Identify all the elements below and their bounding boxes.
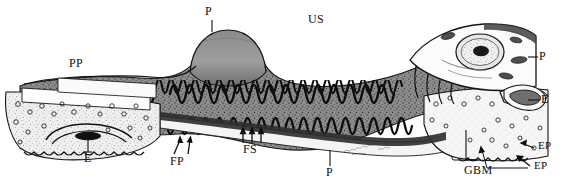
label-fp: FP [170,155,184,167]
label-p-right: P [539,50,546,62]
glomerular-filtration-barrier-figure: P US PP P E E FP FS P GBM EP EP [0,0,571,186]
label-p-top: P [205,5,212,17]
label-e-right: E [541,93,549,105]
label-gbm: GBM [464,164,493,176]
label-ep-1: EP [538,140,552,151]
podocyte-nucleolus [473,46,489,56]
fenestrated-endothelium-left [6,78,160,160]
label-ep-2: EP [534,160,548,171]
label-p-bottom: P [326,166,333,178]
label-pp: PP [69,57,83,69]
label-us: US [308,13,324,25]
label-e-left: E [84,152,92,164]
label-fs: FS [243,143,257,155]
